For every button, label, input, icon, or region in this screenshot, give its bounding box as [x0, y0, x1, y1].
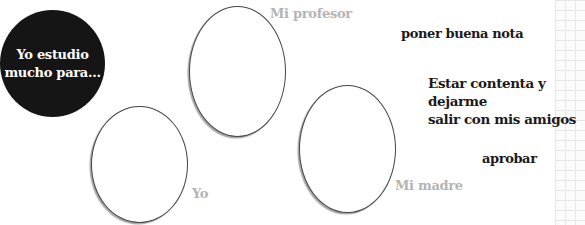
- goal-poner-buena-nota[interactable]: poner buena nota: [401, 25, 523, 43]
- label-profesor: Mi profesor: [270, 6, 352, 21]
- prompt-text: Yo estudio mucho para...: [4, 46, 100, 82]
- ellipse-yo[interactable]: [91, 106, 188, 223]
- goal-aprobar[interactable]: aprobar: [482, 150, 537, 168]
- label-yo: Yo: [192, 186, 208, 201]
- ellipse-madre[interactable]: [299, 85, 396, 213]
- goal-estar-contenta[interactable]: Estar contenta y dejarme salir con mis a…: [428, 74, 585, 128]
- label-madre: Mi madre: [395, 178, 463, 193]
- ellipse-profesor[interactable]: [189, 6, 286, 137]
- prompt-circle: Yo estudio mucho para...: [0, 10, 105, 117]
